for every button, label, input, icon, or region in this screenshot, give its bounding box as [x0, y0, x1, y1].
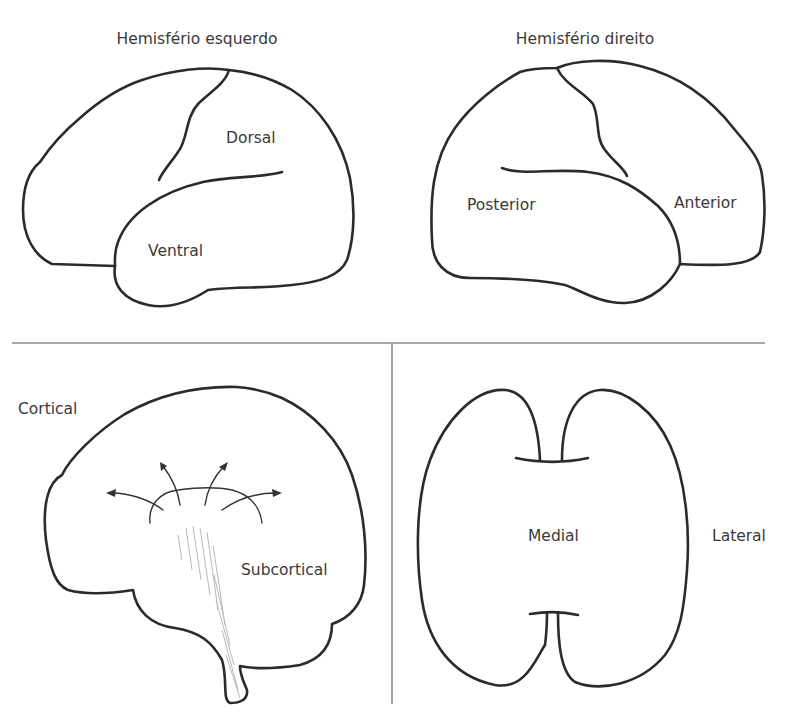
panel-title-left-hemisphere: Hemisfério esquerdo [117, 30, 278, 48]
label-ventral: Ventral [148, 242, 203, 260]
label-lateral: Lateral [712, 527, 766, 545]
medial-lateral-panel: Medial Lateral [418, 390, 766, 686]
brainstem-hatching [178, 526, 240, 698]
panel-title-right-hemisphere: Hemisfério direito [516, 30, 654, 48]
left-hemisphere-panel: Hemisfério esquerdo Dorsal Ventral [23, 30, 353, 306]
label-medial: Medial [528, 527, 579, 545]
label-anterior: Anterior [674, 194, 737, 212]
central-sulcus-right [557, 68, 627, 176]
whole-brain-outline [45, 387, 366, 703]
arrowhead-left-icon [106, 489, 116, 497]
right-hemisphere-panel: Hemisfério direito Posterior Anterior [431, 30, 764, 303]
arrow-right [222, 493, 276, 510]
arrowhead-right-icon [272, 489, 282, 497]
label-dorsal: Dorsal [226, 129, 276, 147]
arrow-up-right [205, 466, 224, 505]
corpus-callosum-top [516, 458, 588, 462]
label-cortical: Cortical [18, 400, 77, 418]
temporal-lobe-right [502, 168, 680, 264]
arrow-up-left [163, 466, 180, 505]
label-subcortical: Subcortical [241, 561, 328, 579]
brain-axes-diagram: Hemisfério esquerdo Dorsal Ventral Hemis… [0, 0, 790, 723]
cortical-subcortical-panel: Cortical Subcortical [18, 387, 366, 703]
subcortical-arc-outer [150, 488, 262, 523]
corpus-callosum-bottom [530, 612, 578, 615]
central-sulcus-left [159, 70, 229, 180]
label-posterior: Posterior [467, 196, 536, 214]
right-hemisphere-outline [431, 61, 764, 303]
